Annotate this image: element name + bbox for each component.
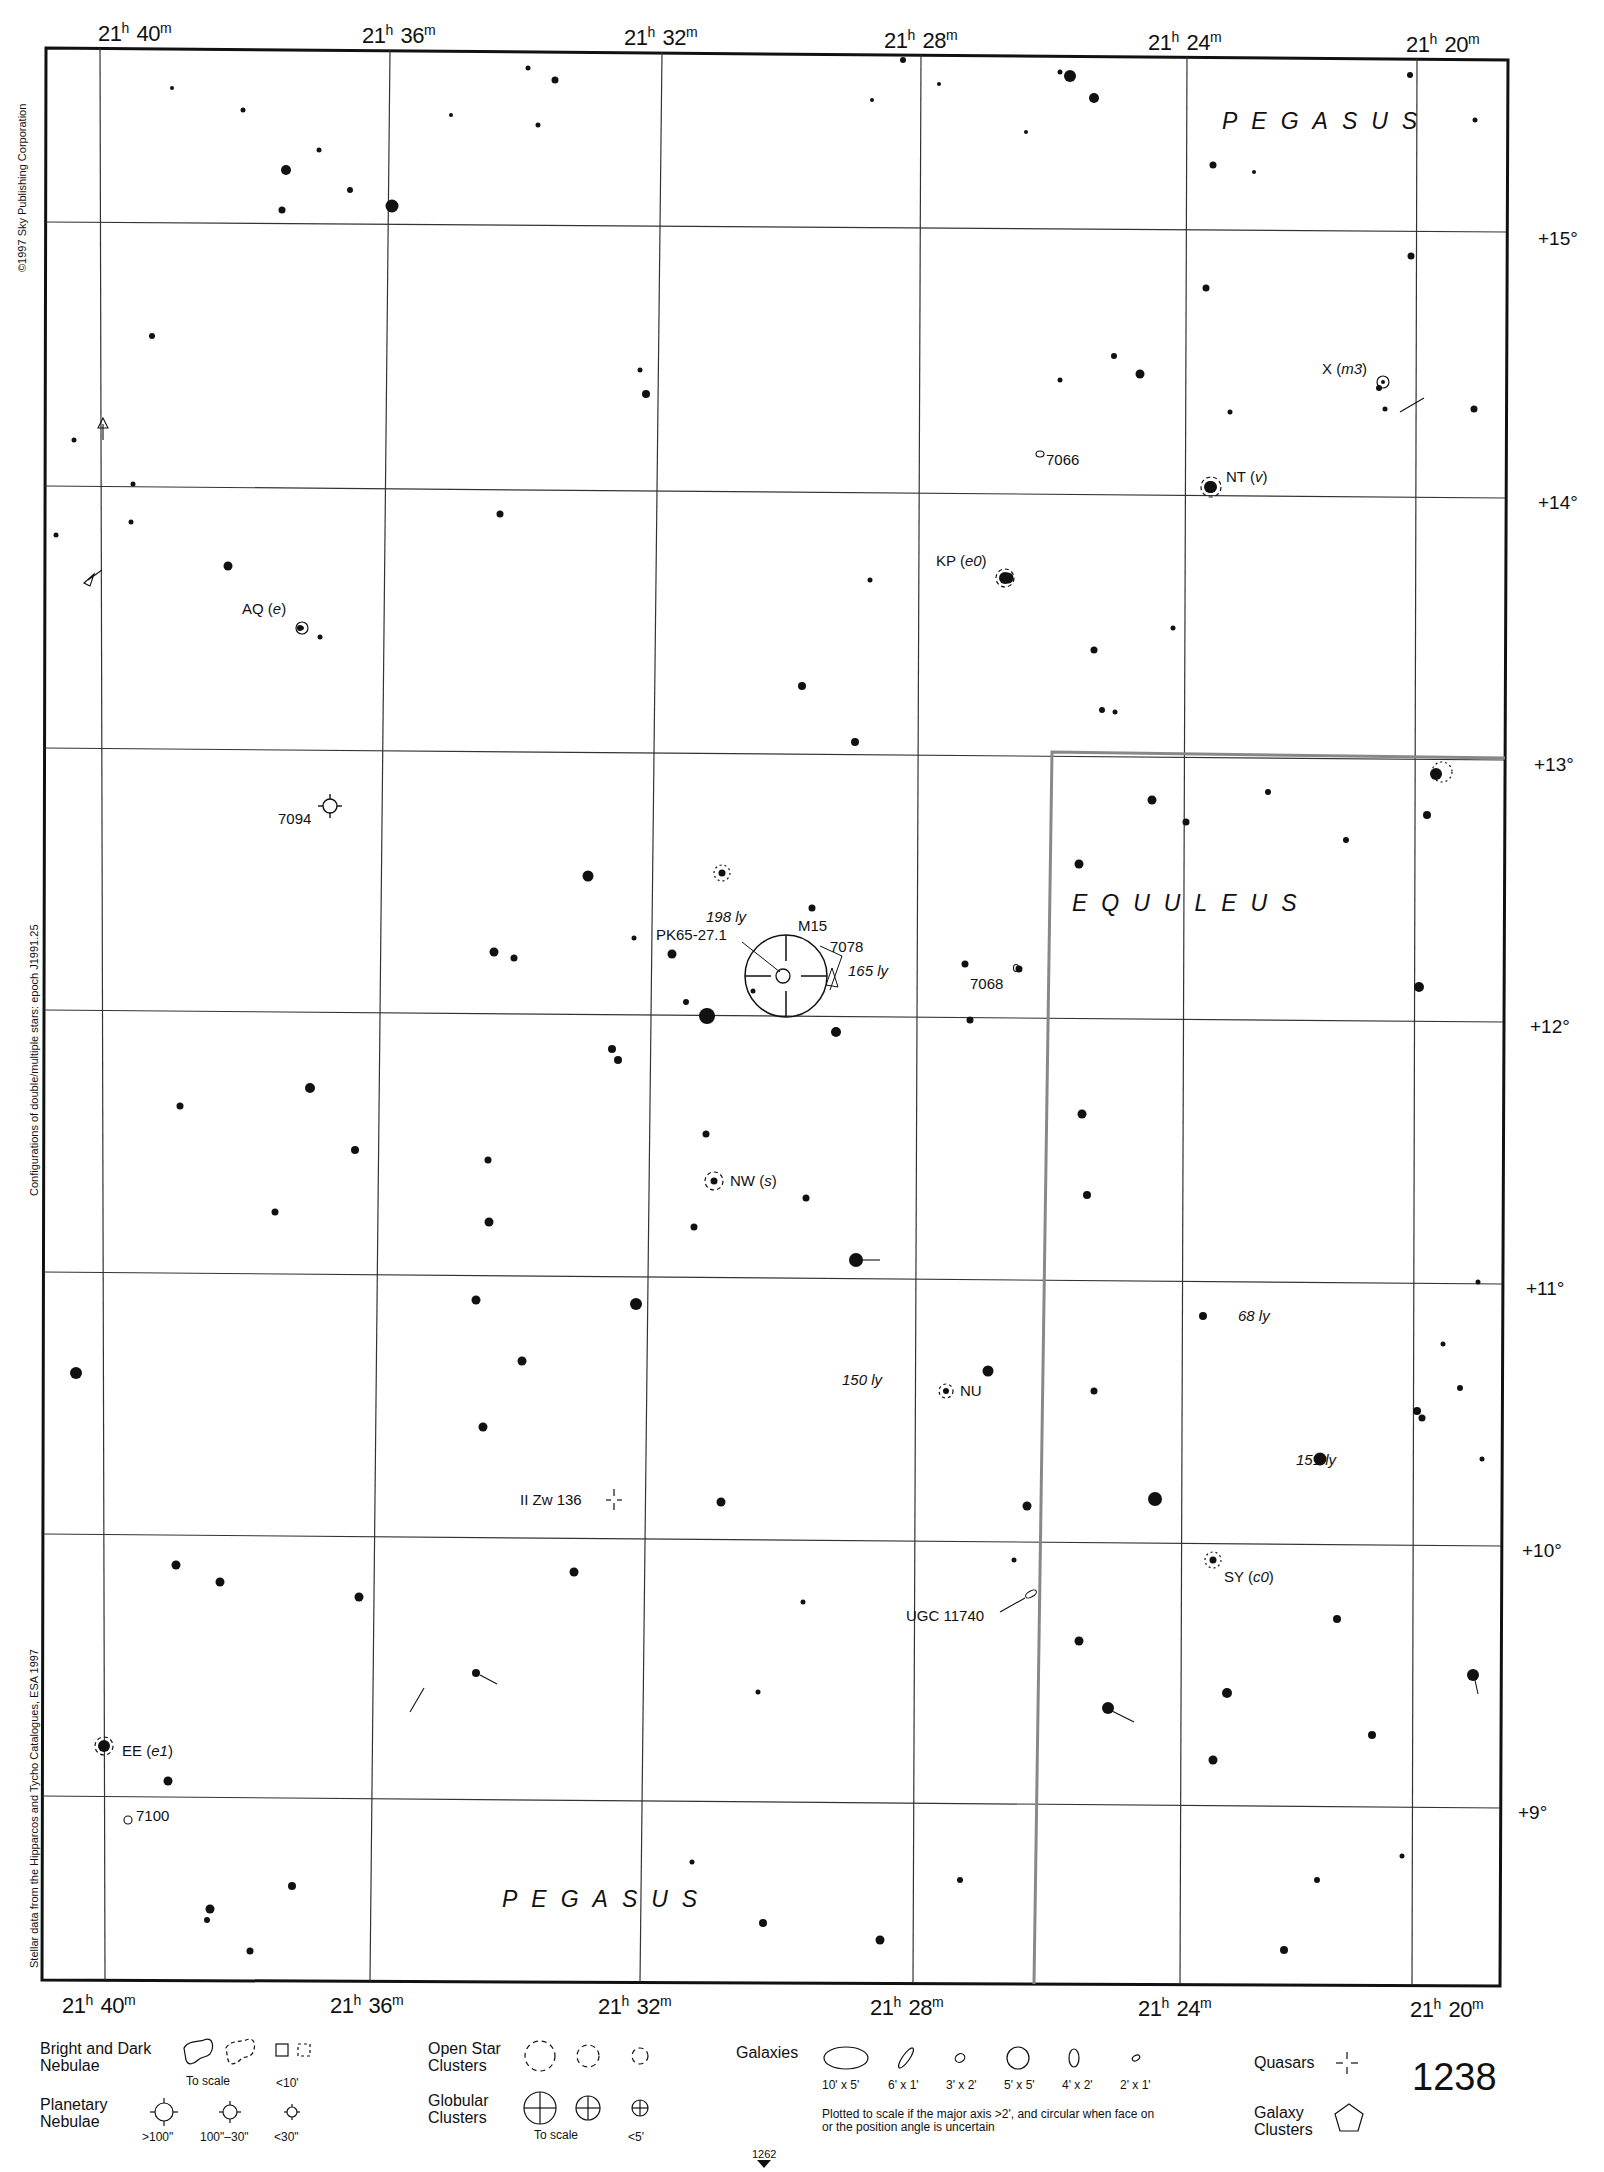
legend-galaxies-title: Galaxies — [736, 2044, 798, 2061]
legend-galaxy-note: Plotted to scale if the major axis >2', … — [822, 2108, 1162, 2134]
down-arrow-icon[interactable] — [757, 2160, 771, 2168]
legend-galaxy-size: 4' x 2' — [1062, 2078, 1093, 2092]
label-var-ee[interactable]: EE (e1) — [122, 1742, 173, 1759]
ra-label: 21h 24m — [1148, 29, 1223, 56]
dec-label: +14° — [1538, 492, 1578, 514]
legend-planetary-size: >100" — [142, 2130, 173, 2144]
galaxy-shape-icons — [820, 2044, 1160, 2074]
label-var-x[interactable]: X (m3) — [1322, 360, 1367, 377]
ra-label: 21h 32m — [624, 24, 699, 51]
page-number: 1238 — [1412, 2056, 1497, 2099]
dec-label: +11° — [1526, 1278, 1564, 1300]
constellation-label-pegasus-top: PEGASUS — [1222, 108, 1431, 135]
label-ngc7100[interactable]: 7100 — [136, 1807, 169, 1824]
stellar-data-note: Stellar data from the Hipparcos and Tych… — [28, 1649, 40, 1968]
label-ngc7078[interactable]: 7078 — [830, 938, 863, 955]
label-ugc11740[interactable]: UGC 11740 — [906, 1607, 984, 1624]
ra-label: 21h 28m — [884, 27, 959, 54]
ra-label: 21h 32m — [598, 1993, 673, 2020]
label-ngc7066[interactable]: 7066 — [1046, 451, 1079, 468]
planetary-nebula-icons — [140, 2096, 320, 2130]
variable-star-cores — [98, 380, 1385, 1752]
ra-label: 21h 40m — [98, 20, 173, 47]
label-ngc7094[interactable]: 7094 — [278, 810, 311, 827]
ra-label: 21h 20m — [1410, 1996, 1485, 2023]
star-chart: 21h 40m 21h 36m 21h 32m 21h 28m 21h 24m … — [0, 0, 1604, 2172]
legend-galaxy-size: 5' x 5' — [1004, 2078, 1035, 2092]
nebula-shape-icon — [180, 2036, 320, 2076]
dec-label: +10° — [1522, 1540, 1562, 1562]
legend-planetary-title: Planetary Nebulae — [40, 2096, 140, 2130]
galaxy-cluster-pentagon-icon — [1332, 2102, 1366, 2134]
dec-label: +15° — [1538, 228, 1578, 250]
variable-star-symbols — [95, 376, 1452, 1755]
dec-label: +9° — [1518, 1802, 1547, 1824]
distance-label: 68 ly — [1238, 1307, 1270, 1324]
constellation-label-pegasus-bottom: PEGASUS — [502, 1886, 711, 1913]
globular-cluster-icons — [520, 2088, 660, 2128]
dec-label: +12° — [1530, 1016, 1570, 1038]
legend-galaxy-size: 6' x 1' — [888, 2078, 919, 2092]
m15-globular-cluster-symbol — [742, 935, 842, 1017]
ra-label: 21h 28m — [870, 1994, 945, 2021]
legend-galaxy-size: 3' x 2' — [946, 2078, 977, 2092]
distance-label: 150 ly — [842, 1371, 882, 1388]
planetary-nebula-7094-symbol — [318, 794, 342, 818]
legend-globular-small: <5' — [628, 2130, 644, 2144]
legend-galaxy-clusters-title: Galaxy Clusters — [1254, 2104, 1334, 2138]
label-ii-zw-136[interactable]: II Zw 136 — [520, 1491, 582, 1508]
legend-galaxy-size: 10' x 5' — [822, 2078, 859, 2092]
legend-nebulae-small: <10' — [276, 2076, 299, 2090]
legend-globular-title: Globular Clusters — [428, 2092, 518, 2126]
legend-globular-scale: To scale — [534, 2128, 578, 2142]
proper-motion-arrows — [84, 398, 1478, 1722]
label-var-sy[interactable]: SY (c0) — [1224, 1568, 1274, 1585]
constellation-label-equuleus: EQUULEUS — [1072, 890, 1311, 917]
distance-label: 198 ly — [706, 908, 746, 925]
label-var-nu[interactable]: NU — [960, 1382, 982, 1399]
ra-label: 21h 40m — [62, 1992, 137, 2019]
constellation-boundary — [1034, 752, 1505, 1984]
distance-label: 151 ly — [1296, 1451, 1336, 1468]
open-cluster-icons — [520, 2036, 660, 2076]
label-pk65-27-1[interactable]: PK65-27.1 — [656, 926, 727, 943]
stars — [54, 57, 1485, 1955]
configurations-note: Configurations of double/multiple stars:… — [28, 924, 40, 1196]
legend-planetary-size: 100"–30" — [200, 2130, 249, 2144]
label-var-nt[interactable]: NT (v) — [1226, 468, 1267, 485]
distance-label: 165 ly — [848, 962, 888, 979]
quasar-symbol — [606, 1489, 622, 1510]
ra-label: 21h 20m — [1406, 31, 1481, 58]
legend-quasars-title: Quasars — [1254, 2054, 1314, 2071]
ra-grid-lines — [100, 48, 1417, 1985]
label-var-aq[interactable]: AQ (e) — [242, 600, 286, 617]
label-var-kp[interactable]: KP (e0) — [936, 552, 987, 569]
copyright-note: ©1997 Sky Publishing Corporation — [16, 104, 28, 272]
adjacent-page-link[interactable]: 1262 — [752, 2148, 776, 2160]
ra-label: 21h 36m — [362, 22, 437, 49]
legend-galaxy-size: 2' x 1' — [1120, 2078, 1151, 2092]
ra-label: 21h 36m — [330, 1992, 405, 2019]
quasar-legend-icon — [1334, 2050, 1360, 2076]
dec-label: +13° — [1534, 754, 1574, 776]
legend: Bright and Dark Nebulae To scale <10' Pl… — [0, 2030, 1604, 2172]
chart-frame — [42, 48, 1508, 1986]
legend-planetary-size: <30" — [274, 2130, 299, 2144]
label-m15[interactable]: M15 — [798, 917, 827, 934]
label-ngc7068[interactable]: 7068 — [970, 975, 1003, 992]
ra-label: 21h 24m — [1138, 1995, 1213, 2022]
legend-nebulae-scale: To scale — [186, 2074, 230, 2088]
label-var-nw[interactable]: NW (s) — [730, 1172, 777, 1189]
legend-open-clusters-title: Open Star Clusters — [428, 2040, 518, 2074]
star-field-svg — [0, 0, 1604, 2172]
